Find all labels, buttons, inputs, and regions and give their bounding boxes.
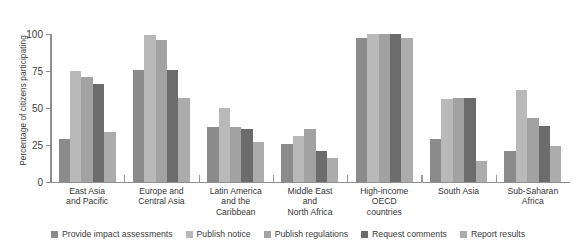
bar [104, 132, 115, 182]
chart-legend: Provide impact assessmentsPublish notice… [0, 229, 576, 239]
category-label-line: countries [347, 207, 421, 217]
bar [253, 142, 264, 182]
legend-label: Publish notice [197, 229, 251, 239]
x-axis-category-label: South Asia [421, 186, 495, 196]
bar [167, 70, 178, 182]
category-label-line: East Asia [50, 186, 124, 196]
legend-item[interactable]: Provide impact assessments [51, 229, 173, 239]
bars-container [356, 34, 413, 182]
bars-container [430, 34, 487, 182]
bar [219, 108, 230, 182]
group-separator-tick [496, 175, 497, 183]
category-label-line: Central Asia [124, 196, 198, 206]
group-separator-tick [421, 175, 422, 183]
bar [401, 38, 412, 182]
category-label-line: and [273, 196, 347, 206]
bar-group [199, 20, 273, 182]
x-axis-category-label: Sub-SaharanAfrica [496, 186, 570, 207]
bar-chart: Percentage of citizens participating 025… [0, 0, 576, 249]
legend-swatch-icon [51, 231, 58, 238]
y-tick-label: 25 [32, 140, 43, 151]
y-tick-mark [46, 182, 52, 183]
bar [516, 90, 527, 182]
bar [390, 34, 401, 182]
plot-area: 0255075100 [50, 20, 570, 182]
bar [207, 127, 218, 182]
bars-container [133, 34, 190, 182]
y-tick-label: 100 [26, 29, 43, 40]
bar [241, 129, 252, 182]
bar [293, 136, 304, 182]
category-label-line: Sub-Saharan [496, 186, 570, 196]
category-label-line: Latin America [199, 186, 273, 196]
category-label-line: Middle East [273, 186, 347, 196]
group-separator-tick [199, 175, 200, 183]
bar [316, 151, 327, 182]
bar-group [124, 20, 198, 182]
bar [356, 38, 367, 182]
x-axis-category-label: Europe andCentral Asia [124, 186, 198, 207]
legend-item[interactable]: Report results [460, 229, 525, 239]
bar [539, 126, 550, 182]
category-label-line: OECD [347, 196, 421, 206]
bar [504, 151, 515, 182]
legend-swatch-icon [186, 231, 193, 238]
x-axis-category-label: Middle EastandNorth Africa [273, 186, 347, 217]
bar [133, 70, 144, 182]
bar-group [496, 20, 570, 182]
legend-swatch-icon [264, 231, 271, 238]
x-axis-category-label: Latin Americaand theCaribbean [199, 186, 273, 217]
bar [304, 129, 315, 182]
bars-container [59, 34, 116, 182]
group-separator-tick [273, 175, 274, 183]
group-separator-tick [124, 175, 125, 183]
y-tick-label: 75 [32, 66, 43, 77]
bar [70, 71, 81, 182]
bar [178, 98, 189, 182]
bar [550, 146, 561, 182]
bar-group [273, 20, 347, 182]
bar-group [347, 20, 421, 182]
category-label-line: Europe and [124, 186, 198, 196]
bar [441, 99, 452, 182]
category-label-line: and Pacific [50, 196, 124, 206]
bar [476, 161, 487, 182]
y-tick-label: 0 [37, 177, 43, 188]
bar [527, 118, 538, 182]
legend-item[interactable]: Request comments [361, 229, 447, 239]
category-label-line: Africa [496, 196, 570, 206]
bar-group [421, 20, 495, 182]
x-axis-line [50, 182, 570, 183]
legend-swatch-icon [460, 231, 467, 238]
legend-swatch-icon [361, 231, 368, 238]
bar [59, 139, 70, 182]
bar [430, 139, 441, 182]
legend-label: Publish regulations [275, 229, 348, 239]
bar [156, 40, 167, 182]
bar [464, 98, 475, 182]
legend-label: Report results [471, 229, 525, 239]
bar [453, 98, 464, 182]
bar [367, 34, 378, 182]
legend-item[interactable]: Publish notice [186, 229, 251, 239]
legend-label: Request comments [372, 229, 447, 239]
bars-container [504, 34, 561, 182]
category-label-line: South Asia [421, 186, 495, 196]
legend-item[interactable]: Publish regulations [264, 229, 348, 239]
bar [144, 35, 155, 182]
bars-container [281, 34, 338, 182]
bar [327, 158, 338, 182]
legend-label: Provide impact assessments [62, 229, 173, 239]
bar [230, 127, 241, 182]
x-axis-category-label: East Asiaand Pacific [50, 186, 124, 207]
bar [93, 84, 104, 182]
bars-container [207, 34, 264, 182]
category-label-line: High-income [347, 186, 421, 196]
bar [81, 77, 92, 182]
bar-group [50, 20, 124, 182]
bar [379, 34, 390, 182]
y-axis-title: Percentage of citizens participating [19, 16, 28, 186]
category-label-line: North Africa [273, 207, 347, 217]
category-label-line: Caribbean [199, 207, 273, 217]
x-axis-category-label: High-incomeOECDcountries [347, 186, 421, 217]
